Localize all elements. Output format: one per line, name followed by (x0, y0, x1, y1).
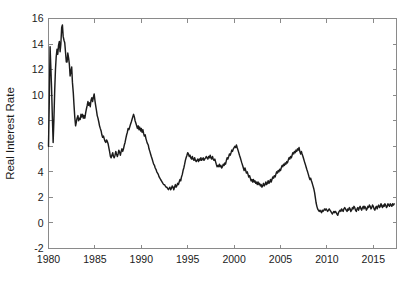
y-tick-label: 16 (32, 12, 44, 24)
x-tick-label: 1990 (130, 253, 154, 265)
y-tick-label: 2 (38, 191, 44, 203)
y-tick-label: 0 (38, 217, 44, 229)
y-axis-title: Real Interest Rate (4, 87, 16, 180)
x-tick-label: 1985 (83, 253, 107, 265)
y-tick-label: 8 (38, 115, 44, 127)
y-tick-label: 6 (38, 140, 44, 152)
y-tick-label: 4 (38, 166, 44, 178)
chart-figure: -20246810121416 198019851990199520002005… (0, 0, 411, 284)
real-interest-rate-line-chart: -20246810121416 198019851990199520002005… (0, 0, 411, 284)
x-tick-label: 2010 (315, 253, 339, 265)
x-tick-label: 2015 (362, 253, 386, 265)
y-tick-label: 14 (32, 38, 44, 50)
y-tick-label: 12 (32, 63, 44, 75)
y-tick-label: 10 (32, 89, 44, 101)
x-tick-label: 2005 (269, 253, 293, 265)
x-tick-label: 2000 (222, 253, 246, 265)
chart-background (0, 0, 411, 284)
x-tick-label: 1980 (37, 253, 61, 265)
x-tick-label: 1995 (176, 253, 200, 265)
